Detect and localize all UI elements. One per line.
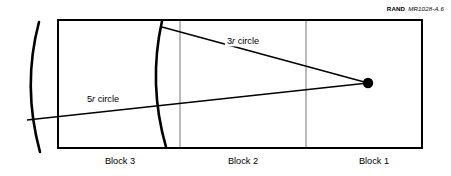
three-r-arc-label-suffix: circle (235, 36, 259, 46)
five-r-ray (27, 83, 368, 120)
block-3-label: Block 3 (105, 157, 135, 166)
block-2-label: Block 2 (228, 157, 258, 166)
three-r-ray (162, 27, 368, 83)
five-r-arc (31, 22, 40, 152)
source-point (363, 78, 373, 88)
five-r-arc-label-suffix: circle (95, 94, 119, 104)
rand-brand-label: RAND (387, 5, 405, 12)
figure-credit: RANDMR1028-A.6 (387, 6, 444, 12)
figure-container: RANDMR1028-A.6 5r circle 3r circle Block… (0, 0, 451, 176)
diagram-canvas (0, 0, 451, 176)
three-r-arc-label: 3r circle (225, 37, 261, 46)
five-r-arc-label: 5r circle (85, 95, 121, 104)
block-1-label: Block 1 (359, 157, 389, 166)
figure-number-label: MR1028-A.6 (408, 5, 444, 12)
three-r-arc (156, 21, 166, 147)
